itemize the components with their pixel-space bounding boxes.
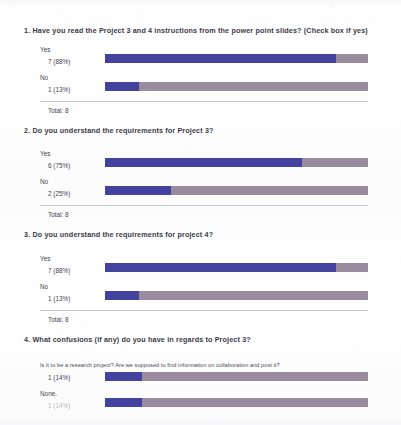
question-block-1: 1. Have you read the Project 3 and 4 ins…	[0, 27, 401, 114]
bar-fill	[105, 186, 171, 195]
question-title-1: 1. Have you read the Project 3 and 4 ins…	[0, 27, 401, 36]
bar-track	[105, 372, 368, 381]
bar-track	[105, 186, 368, 195]
answer-label: Yes	[40, 151, 50, 157]
answer-row: No 1 (13%)	[40, 73, 368, 101]
bar-fill	[105, 82, 139, 91]
bar-track	[105, 158, 368, 167]
answer-label: None.	[40, 391, 57, 397]
bar-track	[105, 398, 368, 407]
answer-label: Is it to be a research project? Are we s…	[40, 363, 280, 369]
question-title-2: 2. Do you understand the requirements fo…	[0, 127, 401, 136]
answer-label: No	[40, 284, 48, 290]
survey-sheet: 1. Have you read the Project 3 and 4 ins…	[0, 0, 401, 417]
bar-fill	[105, 54, 336, 63]
answer-row: No 1 (13%)	[40, 282, 368, 310]
answer-row: No 2 (25%)	[40, 177, 368, 205]
answer-row: Yes 6 (75%)	[40, 149, 368, 177]
answer-count: 7 (88%)	[48, 58, 70, 65]
question-title-4: 4. What confusions (if any) do you have …	[0, 336, 401, 345]
answer-count: 1 (13%)	[48, 86, 70, 93]
bar-fill	[105, 291, 139, 300]
answer-count: 1 (13%)	[48, 295, 70, 302]
answers-list-1: Yes 7 (88%) No 1 (13%)	[0, 45, 401, 101]
answer-count: 7 (88%)	[48, 267, 70, 274]
answer-count: 2 (25%)	[48, 190, 70, 197]
question-block-4: 4. What confusions (if any) do you have …	[0, 336, 401, 417]
bar-track	[105, 82, 368, 91]
answer-row: Yes 7 (88%)	[40, 45, 368, 73]
answers-list-4: Is it to be a research project? Are we s…	[0, 361, 401, 417]
bar-track	[105, 291, 368, 300]
answer-label: No	[40, 179, 48, 185]
total-label: Total: 8	[0, 311, 401, 323]
bar-fill	[105, 263, 336, 272]
total-label: Total: 8	[0, 206, 401, 218]
answer-row: None. 1 (14%)	[40, 389, 368, 417]
question-title-3: 3. Do you understand the requirements fo…	[0, 231, 401, 240]
question-block-3: 3. Do you understand the requirements fo…	[0, 231, 401, 323]
bar-fill	[105, 372, 142, 381]
bar-track	[105, 263, 368, 272]
answer-count: 1 (14%)	[48, 402, 70, 409]
answer-count: 1 (14%)	[48, 374, 70, 381]
answer-row: Yes 7 (88%)	[40, 254, 368, 282]
question-block-2: 2. Do you understand the requirements fo…	[0, 127, 401, 219]
answers-list-3: Yes 7 (88%) No 1 (13%)	[0, 254, 401, 310]
answer-label: No	[40, 75, 48, 81]
answers-list-2: Yes 6 (75%) No 2 (25%)	[0, 149, 401, 205]
answer-label: Yes	[40, 47, 50, 53]
total-label: Total: 8	[0, 102, 401, 114]
answer-row: Is it to be a research project? Are we s…	[40, 361, 368, 389]
bar-fill	[105, 398, 142, 407]
bar-fill	[105, 158, 302, 167]
answer-label: Yes	[40, 256, 50, 262]
answer-count: 6 (75%)	[48, 162, 70, 169]
bar-track	[105, 54, 368, 63]
